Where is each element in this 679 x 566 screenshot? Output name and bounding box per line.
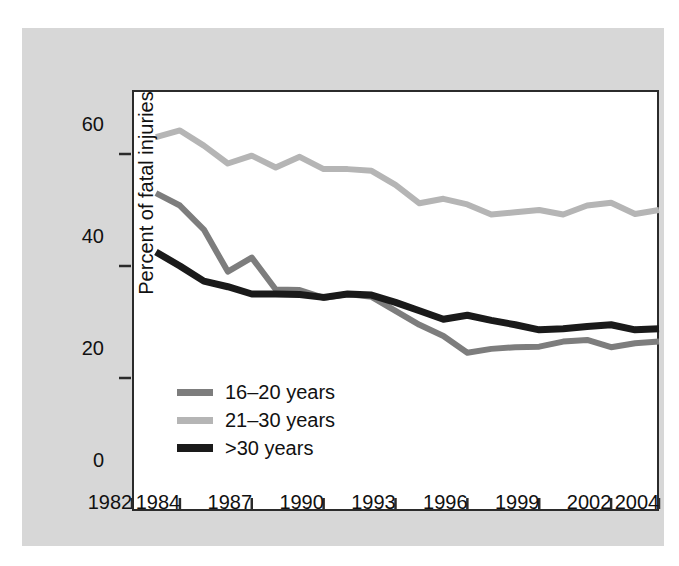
legend-swatch-icon xyxy=(177,389,213,396)
legend-item-label: 16–20 years xyxy=(225,381,335,404)
legend-swatch-icon xyxy=(177,444,213,452)
x-tick-label: 1996 xyxy=(415,491,475,514)
x-tick-label: 1993 xyxy=(344,491,404,514)
x-tick-label: 1984 xyxy=(128,491,188,514)
y-tick-label: 60 xyxy=(58,113,104,136)
series-layer xyxy=(156,130,659,352)
legend-item[interactable]: 16–20 years xyxy=(177,378,335,406)
y-axis-label: Percent of fatal injuries xyxy=(131,63,161,323)
y-axis-label-text: Percent of fatal injuries xyxy=(135,91,158,294)
legend-item[interactable]: >30 years xyxy=(177,434,335,462)
x-tick-label: 1987 xyxy=(200,491,260,514)
y-tick-label: 0 xyxy=(58,449,104,472)
chart-canvas xyxy=(22,28,679,566)
x-tick-label: 1999 xyxy=(487,491,547,514)
legend-item-label: >30 years xyxy=(225,437,313,460)
series-line-21-30-years xyxy=(156,130,659,214)
x-tick-label: 2004 xyxy=(607,491,667,514)
x-tick-label: 1990 xyxy=(272,491,332,514)
figure-panel: 0204060 19821984198719901993199619992002… xyxy=(22,28,664,546)
y-tick-label: 20 xyxy=(58,337,104,360)
legend-item-label: 21–30 years xyxy=(225,409,335,432)
figure-root: 0204060 19821984198719901993199619992002… xyxy=(0,0,679,566)
legend-swatch-icon xyxy=(177,417,213,424)
legend-item[interactable]: 21–30 years xyxy=(177,406,335,434)
chart-legend: 16–20 years21–30 years>30 years xyxy=(177,378,335,462)
y-tick-label: 40 xyxy=(58,225,104,248)
